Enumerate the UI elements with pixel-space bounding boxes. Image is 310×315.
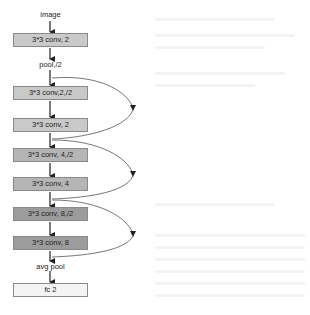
arrowhead-icon [130,231,136,237]
node-pool: pool,/2 [0,60,101,69]
input-label: image [0,10,101,19]
node-avgpool: avg pool [0,262,101,271]
node-fc: fc 2 [13,283,88,297]
node-conv3a: 3*3 conv, 4,/2 [13,148,88,162]
node-conv1: 3*3 conv, 2 [13,33,88,47]
node-conv2b: 3*3 conv, 2 [13,118,88,132]
node-conv3b: 3*3 conv, 4 [13,177,88,191]
node-conv2a: 3*3 conv,2,/2 [13,86,88,100]
arrowhead-icon [130,105,136,111]
arrowhead-icon [130,171,136,177]
node-conv4b: 3*3 conv, 8 [13,236,88,250]
node-conv4a: 3*3 conv, 8,/2 [13,207,88,221]
